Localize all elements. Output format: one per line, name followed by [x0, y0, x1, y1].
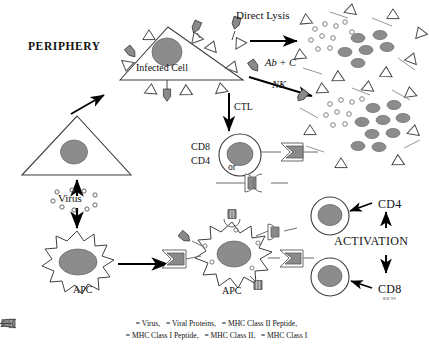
legend: = Virus, = Viral Proteins, = MHC Class I…: [0, 318, 429, 343]
apc-lower-left-label: APC: [73, 285, 92, 295]
activation-label: ACTIVATION: [334, 235, 408, 247]
cd8-right-label: CD8: [378, 283, 402, 295]
cd4-upper-label: CD4: [191, 156, 210, 166]
cd8-tcell: [311, 258, 349, 296]
tcr-mhc-class-ii-recognition: [216, 174, 288, 192]
naive-cell-triangle: [22, 116, 131, 175]
infected-cell-label: Infected Cell: [136, 63, 188, 73]
page-title: PERIPHERY: [28, 41, 101, 53]
signature-label: KB'99: [383, 297, 396, 302]
tcr-mhc-class-i-recognition: [261, 143, 318, 161]
cd4-right-label: CD4: [378, 198, 402, 210]
legend-text-mhc-class-ii: = MHC Class II,: [204, 331, 255, 340]
apc-mhc-class-i-peptide-left: [162, 250, 201, 268]
lysed-cell-debris-upper: [293, 3, 427, 81]
legend-text-viral-proteins: = Viral Proteins,: [166, 319, 216, 328]
cd8-upper-label: CD8: [191, 142, 210, 152]
arrow-label-cd8: [351, 281, 372, 288]
legend-row-1: = Virus, = Viral Proteins, = MHC Class I…: [0, 318, 429, 330]
legend-row-2: = MHC Class I Peptide, = MHC Class II, =…: [0, 330, 429, 342]
virus-label: Virus: [58, 193, 82, 204]
immunology-diagram: PERIPHERY Infected Cell Direct Lysis Ab …: [0, 0, 429, 357]
cd4-tcell: [311, 197, 349, 235]
ctl-label: CTL: [234, 102, 253, 112]
apc-to-cd8-presentation: [268, 250, 314, 267]
apc-center: [195, 222, 272, 288]
direct-lysis-label: Direct Lysis: [236, 10, 289, 21]
arrow-label-cd4: [350, 203, 372, 211]
diagram-canvas: [0, 0, 429, 357]
legend-text-virus: = Virus,: [136, 319, 160, 328]
apc-center-label: APC: [222, 286, 241, 296]
nk-label: NK: [272, 80, 286, 91]
arrow-to-infected-cell: [71, 95, 104, 114]
legend-text-mhc-class-ii-peptide: = MHC Class II Peptide,: [222, 319, 297, 328]
legend-text-mhc-class-i: = MHC Class I: [261, 331, 307, 340]
lysed-cell-debris-lower: [295, 80, 421, 167]
ab-plus-c-label: Ab + C: [265, 58, 296, 69]
legend-text-mhc-class-i-peptide: = MHC Class I Peptide,: [126, 331, 199, 340]
ctl-effector-tcell: [219, 134, 261, 176]
or-label: or: [228, 163, 236, 173]
